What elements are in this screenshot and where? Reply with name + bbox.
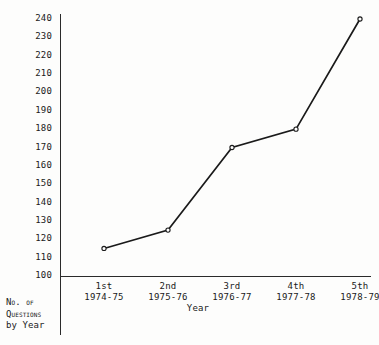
y-tick-label: 140	[0, 198, 52, 207]
y-tick-label: 120	[0, 234, 52, 243]
x-tick-label: 4th1977-78	[276, 281, 315, 303]
y-tick-label: 210	[0, 69, 52, 78]
y-tick-label: 170	[0, 143, 52, 152]
y-tick-label: 110	[0, 253, 52, 262]
y-tick-label: 190	[0, 106, 52, 115]
x-tick-label: 5th1978-79	[340, 281, 379, 303]
chart-caption: No. of Questions by Year	[6, 297, 58, 332]
caption-line-1: No. of	[6, 297, 58, 309]
y-tick-label: 150	[0, 179, 52, 188]
data-point-marker	[358, 17, 362, 21]
y-tick-label: 130	[0, 216, 52, 225]
caption-line-3: by Year	[6, 320, 58, 332]
x-axis-line	[60, 276, 371, 277]
y-tick-label: 220	[0, 51, 52, 60]
y-tick-label: 200	[0, 87, 52, 96]
data-point-marker	[166, 228, 170, 232]
y-tick-label: 230	[0, 32, 52, 41]
x-tick-label: 3rd1976-77	[212, 281, 251, 303]
data-point-marker	[102, 246, 106, 250]
x-tick-label: 1st1974-75	[84, 281, 123, 303]
x-axis-title: Year	[187, 303, 209, 313]
y-tick-label: 160	[0, 161, 52, 170]
data-point-marker	[230, 145, 234, 149]
y-tick-label: 100	[0, 271, 52, 280]
data-point-marker	[294, 127, 298, 131]
x-tick-label: 2nd1975-76	[148, 281, 187, 303]
chart-page: 1001101201301401501601701801902002102202…	[0, 0, 379, 345]
series-line	[104, 19, 360, 248]
caption-line-2: Questions	[6, 309, 58, 321]
y-tick-label: 180	[0, 124, 52, 133]
y-tick-label: 240	[0, 14, 52, 23]
